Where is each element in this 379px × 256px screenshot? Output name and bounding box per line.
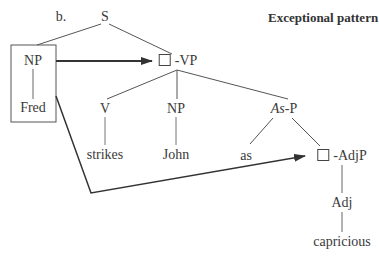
word-capricious: capricious	[313, 234, 371, 250]
node-s: S	[101, 9, 109, 25]
empty-slot-icon	[317, 149, 329, 161]
node-adj: Adj	[332, 195, 353, 211]
node-v: V	[100, 101, 110, 117]
tree-lines	[0, 0, 379, 256]
word-strikes: strikes	[87, 147, 124, 163]
empty-slot-icon	[159, 54, 171, 66]
word-fred: Fred	[20, 100, 46, 116]
word-john: John	[163, 147, 189, 163]
node-adjp: -AdjP	[317, 148, 366, 164]
example-label: b.	[56, 9, 67, 25]
node-vp-label: -VP	[175, 53, 198, 68]
diagram-title: Exceptional pattern	[268, 10, 378, 26]
node-object-np: NP	[167, 101, 185, 117]
node-asp: As-P	[271, 101, 297, 117]
node-subject-np: NP	[24, 53, 42, 69]
node-adjp-label: -AdjP	[333, 148, 366, 163]
node-vp: -VP	[159, 53, 198, 69]
node-asp-suffix: -P	[285, 101, 297, 116]
node-asp-italic: As	[271, 101, 285, 116]
word-as: as	[240, 148, 252, 164]
